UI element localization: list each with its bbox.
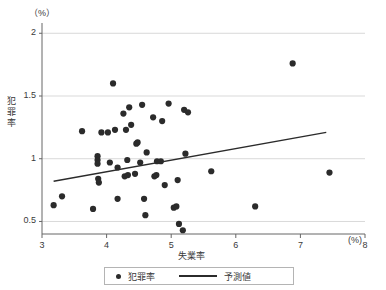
data-point (139, 102, 145, 108)
data-point (79, 128, 85, 134)
data-point (252, 203, 258, 209)
data-point (326, 169, 332, 175)
data-point (208, 168, 214, 174)
data-point (175, 177, 181, 183)
regression-line (54, 132, 327, 181)
plot-area (0, 0, 386, 290)
data-point (185, 109, 191, 115)
data-point (176, 221, 182, 227)
data-point (125, 172, 131, 178)
axis-ticks (39, 33, 365, 238)
data-point (142, 212, 148, 218)
data-point (159, 118, 165, 124)
data-point (94, 161, 100, 167)
data-point (107, 159, 113, 165)
data-point (173, 203, 179, 209)
data-point (123, 127, 129, 133)
legend-label-predicted: 予測値 (224, 270, 251, 283)
data-point (144, 149, 150, 155)
data-point (90, 206, 96, 212)
data-point (150, 114, 156, 120)
data-point (59, 193, 65, 199)
legend-item-observed: 犯罪率 (105, 268, 155, 284)
gridlines (42, 33, 365, 221)
data-point (135, 139, 141, 145)
data-point (166, 100, 172, 106)
data-point (51, 202, 57, 208)
data-point (132, 171, 138, 177)
prediction-line (54, 132, 327, 181)
data-point (124, 157, 130, 163)
legend-label-observed: 犯罪率 (128, 270, 155, 283)
data-point (98, 129, 104, 135)
data-point (120, 110, 126, 116)
legend-line-icon (179, 275, 217, 277)
data-point (162, 182, 168, 188)
data-point (128, 122, 134, 128)
data-point (126, 104, 132, 110)
legend: 犯罪率 予測値 (104, 267, 294, 285)
data-point (153, 172, 159, 178)
data-point (96, 179, 102, 185)
data-point (110, 80, 116, 86)
data-point (105, 129, 111, 135)
legend-item-predicted: 予測値 (155, 268, 251, 284)
data-point (114, 196, 120, 202)
data-point (182, 151, 188, 157)
scatter-chart: （%） 犯罪率 2 1.5 1 0.5 3 4 5 6 7 8 (%) 失業率 … (0, 0, 386, 290)
legend-dot-icon (116, 274, 121, 279)
data-point (141, 196, 147, 202)
data-point (290, 60, 296, 66)
data-points (51, 60, 333, 233)
data-point (180, 227, 186, 233)
axis-lines (42, 23, 365, 234)
data-point (137, 159, 143, 165)
data-point (112, 127, 118, 133)
